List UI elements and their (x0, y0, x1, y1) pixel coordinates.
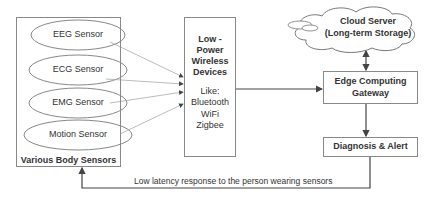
ecg-sensor-label: ECG Sensor (29, 64, 127, 74)
feedback-label: Low latency response to the person weari… (134, 176, 370, 186)
wireless-title-2: Power (184, 45, 236, 55)
cloud-storage-label: (Long-term Storage) (318, 28, 418, 38)
sensors-group-label: Various Body Sensors (16, 155, 121, 165)
emg-sensor-label: EMG Sensor (29, 97, 127, 107)
wireless-title-3: Wireless (184, 56, 236, 66)
wireless-example-3: WiFi (184, 109, 236, 119)
motion-sensor-label: Motion Sensor (24, 129, 132, 139)
wireless-title-1: Low - (184, 34, 236, 44)
gateway-label-2: Gateway (323, 88, 418, 98)
diagnosis-alert-label: Diagnosis & Alert (323, 141, 418, 151)
sensors-group (16, 17, 121, 167)
wireless-example-2: Bluetooth (184, 97, 236, 107)
wireless-example-1: Like: (184, 86, 236, 96)
gateway-label-1: Edge Computing (323, 76, 418, 86)
cloud-server-label: Cloud Server (320, 16, 416, 26)
wireless-example-4: Zigbee (184, 120, 236, 130)
eeg-sensor-label: EEG Sensor (31, 29, 125, 39)
wireless-title-4: Devices (184, 67, 236, 77)
